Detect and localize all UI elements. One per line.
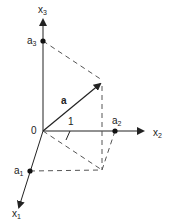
angle-mark: [66, 131, 70, 140]
unit-label: 1: [68, 116, 74, 127]
a3-label: a3: [27, 35, 37, 47]
a2-label: a2: [112, 115, 122, 127]
dashed-a3-to-tip: [43, 41, 102, 80]
dashed-origin-to-projection: [43, 131, 102, 170]
x1-label: x1: [12, 208, 21, 220]
dashed-a2-to-projection: [102, 131, 115, 170]
x2-label: x2: [153, 127, 162, 139]
a1-label: a1: [14, 165, 24, 177]
a2-point: [112, 128, 117, 133]
x3-label: x3: [38, 4, 47, 16]
a3-point: [40, 38, 45, 43]
dashed-a1-to-projection: [30, 170, 102, 171]
vector-a-label: a: [61, 95, 67, 106]
origin-label: 0: [31, 125, 37, 136]
vector-component-diagram: x3 x2 x1 a3 a2 a1 0 a 1: [0, 0, 181, 224]
a1-point: [27, 168, 32, 173]
